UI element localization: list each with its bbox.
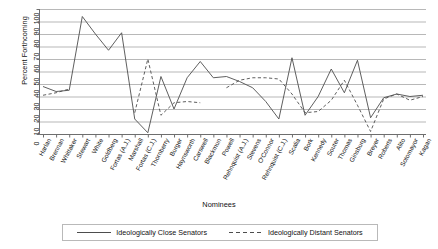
legend-label-distant: Ideologically Distant Senators: [268, 228, 363, 237]
y-axis-title: Percent Forthcoming: [20, 0, 29, 103]
legend-item-distant: Ideologically Distant Senators: [229, 228, 363, 237]
series-lines: [43, 17, 423, 133]
x-axis-tick-labels: HarlanBrennanWhittakerStewartWhiteGoldbe…: [40, 137, 426, 197]
y-tick-label: 100: [33, 8, 40, 30]
dashed-line-swatch: [229, 229, 263, 236]
chart-legend: Ideologically Close Senators Ideological…: [62, 224, 378, 241]
solid-line-swatch: [77, 229, 111, 236]
plot-svg: [40, 9, 426, 134]
legend-label-close: Ideologically Close Senators: [116, 228, 207, 237]
chart-figure: Percent Forthcoming 01020304050607080901…: [0, 0, 438, 249]
x-axis-title: Nominees: [0, 200, 438, 209]
plot-area: [40, 9, 426, 134]
legend-item-close: Ideologically Close Senators: [77, 228, 207, 237]
